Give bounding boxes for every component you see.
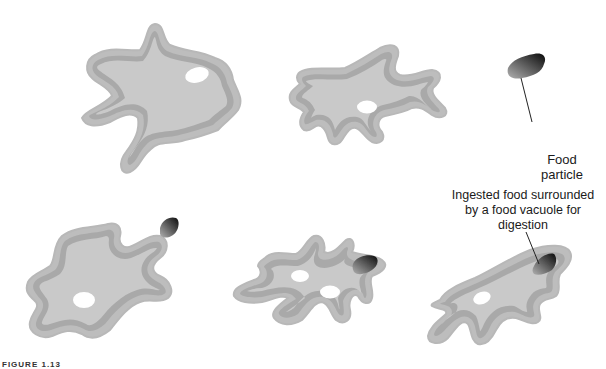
- amoeba-stage-5: [428, 232, 571, 344]
- amoeba-diagram: [0, 0, 606, 369]
- label-line: Food: [527, 152, 597, 167]
- amoeba-stage-4: [234, 236, 385, 325]
- figure-caption: FIGURE 1.13: [2, 360, 61, 369]
- label-line: digestion: [440, 218, 606, 233]
- ingested-food-label: Ingested food surrounded by a food vacuo…: [440, 188, 606, 233]
- label-line: Ingested food surrounded: [440, 188, 606, 203]
- food-particle: [508, 54, 545, 122]
- amoeba-stage-3: [27, 217, 179, 337]
- vacuole: [73, 292, 95, 308]
- amoeba-stage-2: [290, 45, 447, 144]
- vacuole: [357, 101, 377, 114]
- vacuole: [291, 270, 309, 282]
- food-particle-pointer: [521, 78, 532, 122]
- vacuole: [320, 286, 340, 299]
- food-particle-approaching: [160, 217, 179, 237]
- food-particle-label: Food particle: [527, 152, 597, 182]
- label-line: by a food vacuole for: [440, 203, 606, 218]
- amoeba-stage-1: [82, 24, 241, 173]
- label-line: particle: [527, 167, 597, 182]
